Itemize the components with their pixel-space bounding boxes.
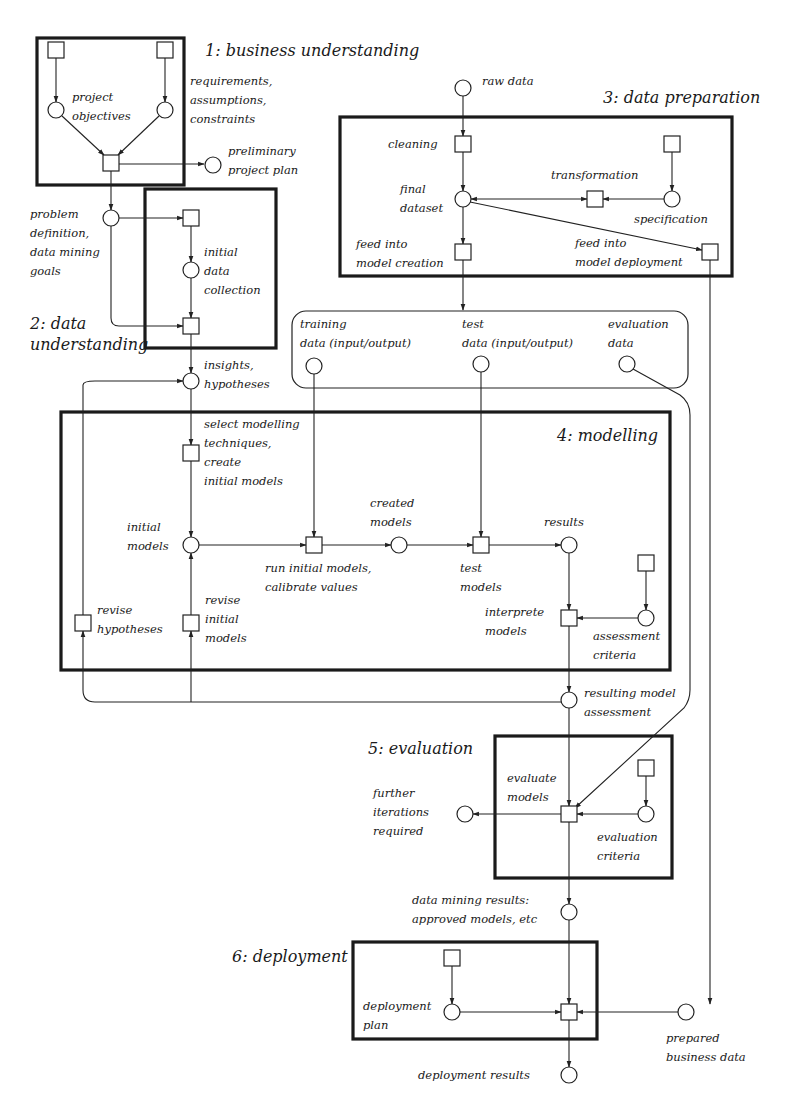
label-dm-results: data mining results: [412,893,529,907]
phase-title-1: 1: business understanding [205,41,419,60]
circle-icon-dm-results [561,904,577,920]
label-further-iterations-3: required [373,824,423,838]
phase-title-2b: understanding [30,335,148,354]
phase-title-4: 4: modelling [556,426,658,445]
square-icon-revise-initial [183,615,199,631]
label-insights: insights, [204,358,254,372]
square-icon-select-techniques [183,445,199,461]
label-preliminary-plan-2: project plan [228,163,298,177]
label-assessment-criteria: assessment [593,629,660,643]
label-problem-definition-3: data mining [30,245,100,259]
square-icon-objectives-source [157,42,173,58]
circle-icon-insights [183,373,199,389]
crisp-dm-diagram: 1: business understanding 2: data unders… [0,0,809,1118]
label-evaluate-models-2: models [507,790,549,804]
square-icon-evaluate [561,806,577,822]
label-deployment-plan: deployment [363,999,432,1013]
label-evaluation-criteria: evaluation [597,830,658,844]
label-transformation: transformation [551,168,638,182]
label-specification: specification [634,212,708,226]
circle-icon-evaluation-criteria [638,806,654,822]
circle-icon-specification [664,191,680,207]
label-evaluation-data: evaluation [608,317,669,331]
label-revise-initial-2: initial [205,612,239,626]
label-test-data-2: data (input/output) [462,336,573,350]
label-raw-data: raw data [482,74,534,88]
label-insights-2: hypotheses [204,377,270,391]
phase-title-2a: 2: data [29,314,86,333]
circle-icon-requirements [157,102,173,118]
square-icon-test-models [473,537,489,553]
circle-icon-test-data [473,356,489,372]
label-revise-initial-3: models [205,631,247,645]
square-icon-interprete [561,610,577,626]
label-evaluation-data-2: data [608,336,634,350]
label-test-models: test [460,561,482,575]
square-icon-run-models [306,537,322,553]
label-problem-definition: problem [30,207,79,221]
square-icon-collect [183,210,199,226]
circle-icon-final-dataset [455,191,471,207]
circle-icon-initial-models [183,537,199,553]
label-test-models-2: models [460,580,502,594]
circle-icon-created-models [391,537,407,553]
square-icon-spec-source [664,136,680,152]
label-results: results [544,515,584,529]
label-assessment-criteria-2: criteria [593,648,636,662]
label-feed-creation: feed into [355,237,408,251]
square-icon-transformation [587,191,603,207]
label-select-techniques: select modelling [204,417,300,431]
label-problem-definition-4: goals [30,264,61,278]
square-icon-assessment-source [638,555,654,571]
label-prepared-business-2: business data [666,1050,746,1064]
square-icon-eval-criteria-source [638,760,654,776]
square-icon-requirements-source [48,42,64,58]
label-deployment-results: deployment results [418,1068,530,1082]
label-training-data-2: data (input/output) [300,336,411,350]
label-initial-data-2: data [204,264,230,278]
square-icon-explore [183,318,199,334]
circle-icon-training-data [306,358,322,374]
circle-icon-results [561,537,577,553]
label-interprete-2: models [485,624,527,638]
label-revise-initial: revise [205,593,240,607]
label-evaluate-models: evaluate [507,771,557,785]
phase-title-6: 6: deployment [232,947,348,966]
node-labels: project objectives requirements, assumpt… [30,74,746,1082]
label-created-models-2: models [370,515,412,529]
circle-icon-initial-data [183,262,199,278]
square-icon-cleaning [455,136,471,152]
circle-icon-project-objectives [48,102,64,118]
label-initial-data: initial [204,245,238,259]
circle-icon-evaluation-data [619,356,635,372]
label-revise-hypotheses: revise [97,603,132,617]
square-icon-feed-deployment [702,244,718,260]
label-feed-creation-2: model creation [356,256,444,270]
phase-title-3: 3: data preparation [603,88,760,107]
circle-icon-assessment-criteria [638,610,654,626]
square-icon-revise-hypotheses [75,615,91,631]
circle-icon-deployment-results [561,1067,577,1083]
label-run-initial: run initial models, [265,561,371,575]
edges [56,57,710,1067]
label-revise-hypotheses-2: hypotheses [97,622,163,636]
label-run-initial-2: calibrate values [265,580,358,594]
circle-icon-preliminary-plan [205,157,221,173]
label-dm-results-2: approved models, etc [412,912,538,926]
label-resulting-assessment: resulting model [584,686,676,700]
square-icon-deploy [561,1004,577,1020]
square-icon-merge [103,155,119,171]
circle-icon-raw-data [455,80,471,96]
label-feed-deployment: feed into [574,236,627,250]
label-project-objectives: project [72,90,114,104]
label-problem-definition-2: definition, [30,226,89,240]
square-icon-feed-creation [455,244,471,260]
label-select-techniques-2: techniques, [204,436,272,450]
label-final-dataset-2: dataset [400,201,443,215]
label-requirements-3: constraints [190,112,255,126]
circle-icon-further-iterations [457,806,473,822]
label-cleaning: cleaning [388,137,438,151]
circle-icon-deployment-plan [444,1004,460,1020]
label-select-techniques-4: initial models [204,474,283,488]
label-initial-models: initial [127,520,161,534]
